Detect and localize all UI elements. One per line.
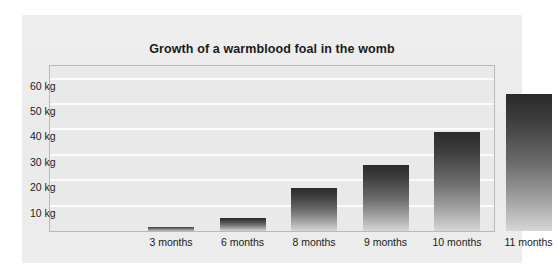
x-axis-category-label: 9 months [350, 236, 422, 248]
chart-card-panel: Growth of a warmblood foal in the womb 1… [22, 15, 522, 263]
y-axis-tick-label: 10 kg [30, 207, 56, 219]
y-axis-tick-label: 40 kg [30, 130, 56, 142]
x-axis-category-label: 11 months [493, 236, 557, 248]
bar [291, 188, 337, 231]
bar-series [50, 66, 494, 231]
y-axis-tick-label: 30 kg [30, 156, 56, 168]
y-axis-tick-label: 20 kg [30, 181, 56, 193]
bar [506, 94, 552, 231]
chart-title: Growth of a warmblood foal in the womb [22, 42, 522, 56]
plot-area [49, 65, 495, 232]
y-axis-tick-label: 50 kg [30, 105, 56, 117]
x-axis-category-label: 8 months [278, 236, 350, 248]
bar [434, 132, 480, 231]
bar [220, 218, 266, 231]
x-axis-category-label: 6 months [207, 236, 279, 248]
bar [363, 165, 409, 231]
x-axis-category-label: 3 months [135, 236, 207, 248]
plot-inner [50, 66, 494, 231]
x-axis-category-label: 10 months [421, 236, 493, 248]
bar [148, 227, 194, 231]
y-axis-tick-label: 60 kg [30, 80, 56, 92]
